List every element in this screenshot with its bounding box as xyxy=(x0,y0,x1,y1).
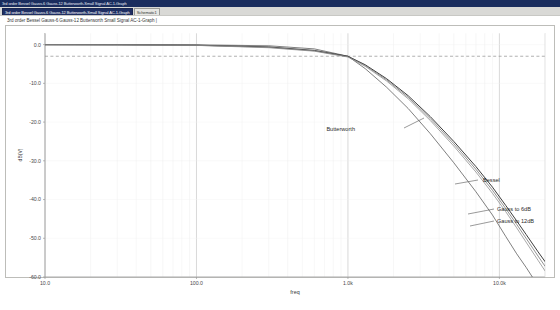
application-window: 3rd order Bessel Gauss-6 Gauss-12 Butter… xyxy=(0,0,560,310)
y-tick-label: -10.0 xyxy=(29,80,41,86)
y-tick-label: 0.0 xyxy=(34,42,41,48)
y-tick-label: -30.0 xyxy=(29,158,41,164)
annotation-leader-line xyxy=(455,180,478,184)
curve-gauss-to-12db[interactable] xyxy=(45,45,545,271)
curve-gauss-to-6db[interactable] xyxy=(45,45,545,266)
x-tick-label: 10.0k xyxy=(493,280,506,286)
x-tick-label: 100.0 xyxy=(190,280,203,286)
annotation-bessel: Bessel xyxy=(483,177,500,183)
y-tick-label: -60.0 xyxy=(29,274,41,280)
grid-lines xyxy=(45,33,545,277)
x-tick-label: 10.0 xyxy=(40,280,50,286)
y-tick-label: -20.0 xyxy=(29,119,41,125)
annotation-butterworth: Butterworth xyxy=(326,126,355,132)
tick-labels: 10.0100.01.0k10.0k0.0-10.0-20.0-30.0-40.… xyxy=(17,42,506,295)
curve-bessel[interactable] xyxy=(45,45,545,262)
y-tick-label: -50.0 xyxy=(29,235,41,241)
x-axis-label: freq xyxy=(290,289,299,295)
frequency-response-chart[interactable]: 10.0100.01.0k10.0k0.0-10.0-20.0-30.0-40.… xyxy=(0,0,560,310)
annotation-gauss-to-12db: Gauss to 12dB xyxy=(497,218,534,224)
annotation-leader-line xyxy=(470,221,494,226)
x-tick-label: 1.0k xyxy=(343,280,353,286)
y-tick-label: -40.0 xyxy=(29,196,41,202)
annotation-gauss-to-6db: Gauss to 6dB xyxy=(497,206,531,212)
y-axis-label: dB(V) xyxy=(17,148,23,161)
axes xyxy=(45,33,545,277)
plot-area[interactable]: 10.0100.01.0k10.0k0.0-10.0-20.0-30.0-40.… xyxy=(0,0,560,310)
